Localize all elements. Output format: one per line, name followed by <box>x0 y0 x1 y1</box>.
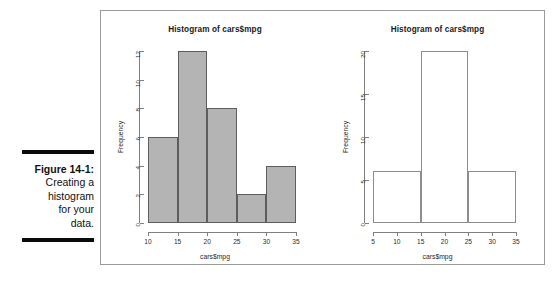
figure-caption-block: Figure 14-1: Creating a histogram for yo… <box>10 150 94 242</box>
figure-caption-text: Figure 14-1: Creating a histogram for yo… <box>10 163 94 230</box>
x-axis-tick-label: 25 <box>233 238 240 245</box>
x-axis-tick-label: 10 <box>393 238 400 245</box>
x-axis-tick <box>373 232 374 236</box>
x-axis-tick <box>492 232 493 236</box>
x-axis-tick-label: 35 <box>512 238 519 245</box>
x-axis-tick <box>445 232 446 236</box>
caption-line-2: histogram <box>10 190 94 203</box>
y-axis-tick <box>140 166 144 167</box>
y-axis-tick-label: 6 <box>134 137 141 140</box>
y-axis-tick <box>140 137 144 138</box>
caption-rule-top <box>22 150 94 154</box>
figure-frame: Histogram of cars$mpg cars$mpg Frequency… <box>100 10 545 265</box>
histogram-bar <box>468 171 516 223</box>
y-axis-tick-label: 12 <box>134 51 141 58</box>
y-axis-tick-label: 20 <box>359 51 366 58</box>
x-axis-tick-label: 10 <box>144 238 151 245</box>
y-axis-tick <box>365 94 369 95</box>
y-axis-tick-label: 8 <box>134 108 141 111</box>
x-axis-tick <box>207 232 208 236</box>
plot-area-right <box>373 51 516 223</box>
caption-rule-bottom <box>22 238 94 242</box>
x-axis-tick <box>468 232 469 236</box>
y-axis-tick <box>365 180 369 181</box>
x-axis-tick <box>237 232 238 236</box>
caption-line-3: for your <box>10 203 94 216</box>
y-axis-tick-label: 10 <box>359 137 366 144</box>
y-axis-tick-label: 10 <box>134 80 141 87</box>
x-axis-tick-label: 35 <box>292 238 299 245</box>
caption-line-4: data. <box>10 217 94 230</box>
y-axis-tick <box>140 108 144 109</box>
x-axis-tick-label: 20 <box>204 238 211 245</box>
y-axis-tick-label: 2 <box>134 194 141 197</box>
histogram-bar <box>237 194 267 223</box>
chart-title-right: Histogram of cars$mpg <box>329 25 546 34</box>
histogram-bar <box>421 51 469 223</box>
histogram-panel-right: Histogram of cars$mpg cars$mpg Frequency… <box>329 11 546 264</box>
x-axis-tick-label: 20 <box>441 238 448 245</box>
y-axis-title-left: Frequency <box>117 121 124 153</box>
plot-area-left <box>148 51 296 223</box>
bars-left <box>148 51 296 223</box>
x-axis-tick <box>516 232 517 236</box>
y-axis-tick <box>365 51 369 52</box>
figure-number-label: Figure 14-1: <box>10 163 94 176</box>
histogram-panel-left: Histogram of cars$mpg cars$mpg Frequency… <box>101 11 329 264</box>
x-axis-line <box>148 232 296 233</box>
x-axis-title-right: cars$mpg <box>329 253 546 260</box>
histogram-bar <box>373 171 421 223</box>
x-axis-tick <box>266 232 267 236</box>
histogram-bar <box>266 166 296 223</box>
x-axis-tick <box>296 232 297 236</box>
x-axis-tick <box>421 232 422 236</box>
histogram-bar <box>178 51 208 223</box>
y-axis-title-right: Frequency <box>342 121 349 153</box>
bars-right <box>373 51 516 223</box>
y-axis-tick-label: 5 <box>359 180 366 183</box>
histogram-bar <box>207 108 237 223</box>
x-axis-tick-label: 15 <box>174 238 181 245</box>
y-axis-tick-label: 0 <box>134 223 141 226</box>
x-axis-title-left: cars$mpg <box>101 253 329 260</box>
y-axis-tick <box>365 223 369 224</box>
histogram-bar <box>148 137 178 223</box>
x-axis-tick-label: 5 <box>371 238 375 245</box>
chart-title-left: Histogram of cars$mpg <box>101 25 329 34</box>
x-axis-tick-label: 30 <box>263 238 270 245</box>
x-axis-tick <box>148 232 149 236</box>
y-axis-tick-label: 0 <box>359 223 366 226</box>
x-axis-tick-label: 25 <box>465 238 472 245</box>
x-axis-tick <box>178 232 179 236</box>
x-axis-tick <box>397 232 398 236</box>
y-axis-tick <box>365 137 369 138</box>
caption-line-1: Creating a <box>10 176 94 189</box>
y-axis-tick <box>140 194 144 195</box>
y-axis-tick <box>140 80 144 81</box>
y-axis-tick <box>140 51 144 52</box>
y-axis-tick <box>140 223 144 224</box>
y-axis-tick-label: 15 <box>359 94 366 101</box>
y-axis-tick-label: 4 <box>134 166 141 169</box>
x-axis-tick-label: 30 <box>488 238 495 245</box>
x-axis-tick-label: 15 <box>417 238 424 245</box>
